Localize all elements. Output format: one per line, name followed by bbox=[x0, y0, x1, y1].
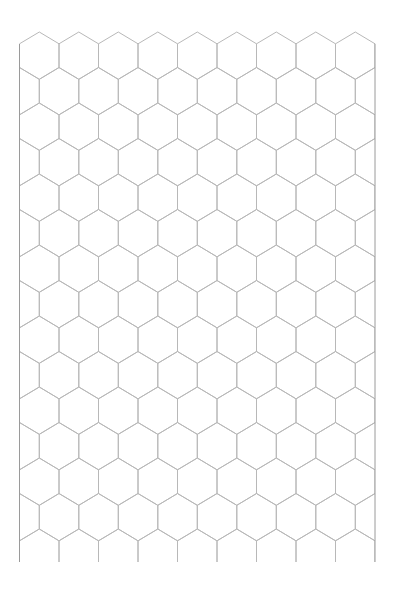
hex-cell bbox=[158, 423, 198, 470]
hex-cell bbox=[237, 352, 276, 399]
hex-cell bbox=[118, 210, 158, 257]
hex-cell bbox=[138, 529, 178, 576]
hex-cell bbox=[257, 387, 297, 434]
hex-cell bbox=[79, 68, 119, 115]
hex-cell bbox=[178, 245, 218, 292]
hex-cell bbox=[178, 316, 218, 363]
hex-cell bbox=[237, 281, 276, 328]
hex-cell bbox=[138, 103, 178, 150]
hex-cell bbox=[178, 32, 218, 79]
hex-cell bbox=[39, 68, 79, 115]
hex-cell bbox=[39, 494, 79, 541]
hex-cell bbox=[336, 103, 376, 150]
hex-cell bbox=[217, 529, 257, 576]
hex-cell bbox=[336, 32, 376, 79]
hex-cell bbox=[20, 458, 60, 505]
hex-cell bbox=[336, 458, 376, 505]
hex-cell bbox=[276, 423, 316, 470]
hex-cell bbox=[20, 32, 60, 79]
hex-cell bbox=[39, 352, 79, 399]
hex-cell bbox=[276, 494, 316, 541]
hex-cell bbox=[79, 494, 119, 541]
hex-cell bbox=[79, 423, 119, 470]
hex-cell bbox=[20, 245, 60, 292]
hex-cell bbox=[237, 423, 276, 470]
hex-cell bbox=[158, 210, 198, 257]
hex-cell bbox=[138, 245, 178, 292]
hex-cell bbox=[296, 174, 336, 221]
hex-cell bbox=[296, 316, 336, 363]
hex-cell bbox=[197, 423, 237, 470]
hex-cell bbox=[39, 423, 79, 470]
hex-cell bbox=[59, 316, 99, 363]
hex-cell bbox=[296, 103, 336, 150]
hex-cell bbox=[178, 174, 218, 221]
hex-cell bbox=[99, 174, 139, 221]
hex-cell bbox=[237, 68, 276, 115]
hex-cell bbox=[197, 210, 237, 257]
hex-cell bbox=[20, 316, 60, 363]
hex-cell bbox=[316, 210, 356, 257]
hex-cell bbox=[99, 387, 139, 434]
hex-cell bbox=[158, 139, 198, 186]
hex-cell bbox=[257, 316, 297, 363]
hex-cell bbox=[118, 352, 158, 399]
hex-cell bbox=[79, 210, 119, 257]
hex-cell bbox=[20, 103, 60, 150]
hex-cell bbox=[296, 32, 336, 79]
hex-cell bbox=[79, 281, 119, 328]
hex-cell bbox=[99, 32, 139, 79]
hex-cell bbox=[59, 103, 99, 150]
hex-cell bbox=[217, 316, 257, 363]
hex-cell bbox=[158, 352, 198, 399]
hex-cell bbox=[276, 139, 316, 186]
hex-cell bbox=[178, 103, 218, 150]
hex-cell bbox=[217, 387, 257, 434]
hex-cell bbox=[316, 281, 356, 328]
hex-cell bbox=[118, 494, 158, 541]
hex-cell bbox=[316, 68, 356, 115]
hex-cell bbox=[39, 139, 79, 186]
hex-cell bbox=[217, 458, 257, 505]
hex-cell bbox=[197, 494, 237, 541]
hex-cell bbox=[257, 458, 297, 505]
hex-cell bbox=[158, 68, 198, 115]
hex-cell bbox=[336, 245, 376, 292]
hex-cell bbox=[217, 32, 257, 79]
hex-cell bbox=[257, 32, 297, 79]
hex-cell bbox=[336, 316, 376, 363]
hex-cell bbox=[237, 210, 276, 257]
hex-cell bbox=[237, 139, 276, 186]
hex-cell bbox=[99, 458, 139, 505]
hex-cell bbox=[138, 316, 178, 363]
hex-cell bbox=[296, 387, 336, 434]
hex-cell bbox=[59, 458, 99, 505]
hex-cell bbox=[118, 281, 158, 328]
hex-cell bbox=[99, 103, 139, 150]
hex-cell bbox=[99, 316, 139, 363]
hex-cell bbox=[99, 245, 139, 292]
hex-cell bbox=[20, 387, 60, 434]
hex-cell bbox=[276, 210, 316, 257]
hex-cell bbox=[178, 529, 218, 576]
hex-cell bbox=[138, 458, 178, 505]
hex-cell bbox=[336, 174, 376, 221]
hex-cell bbox=[118, 68, 158, 115]
hex-cell bbox=[59, 245, 99, 292]
hex-cell bbox=[197, 68, 237, 115]
hex-cell bbox=[39, 281, 79, 328]
hex-cell bbox=[336, 387, 376, 434]
hex-cell bbox=[316, 352, 356, 399]
hex-cell bbox=[59, 387, 99, 434]
hex-cell bbox=[316, 139, 356, 186]
hex-cell bbox=[276, 352, 316, 399]
hex-cell bbox=[118, 139, 158, 186]
hex-cell bbox=[296, 245, 336, 292]
hex-cell bbox=[237, 494, 276, 541]
hex-cell bbox=[197, 352, 237, 399]
hex-cell bbox=[316, 423, 356, 470]
hex-cell bbox=[118, 423, 158, 470]
hex-cell bbox=[138, 174, 178, 221]
hex-cell bbox=[59, 529, 99, 576]
hex-cell bbox=[59, 32, 99, 79]
